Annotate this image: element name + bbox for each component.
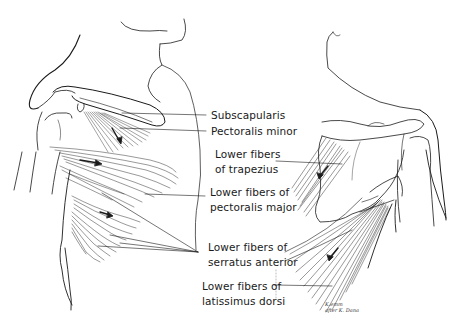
label-text: Lower fibers bbox=[215, 147, 281, 162]
anatomy-figure: Subscapularis Pectoralis minor Lower fib… bbox=[0, 0, 460, 326]
label-text: Subscapularis bbox=[211, 108, 285, 122]
label-lower-latissimus-dorsi: Lower fibers of latissimus dorsi bbox=[202, 279, 285, 309]
label-text: Lower fibers of bbox=[208, 240, 298, 255]
label-text: Lower fibers of bbox=[202, 279, 285, 294]
label-text: Pectoralis minor bbox=[211, 124, 297, 138]
label-text: serratus anterior bbox=[208, 255, 298, 270]
label-lower-pectoralis-major: Lower fibers of pectoralis major bbox=[210, 185, 297, 215]
label-text: of trapezius bbox=[215, 162, 281, 177]
label-subscapularis: Subscapularis bbox=[211, 108, 285, 122]
anterior-view-drawing bbox=[14, 19, 206, 310]
signature-line: after K. Dana bbox=[325, 307, 359, 313]
label-lower-trapezius: Lower fibers of trapezius bbox=[215, 147, 281, 177]
label-pectoralis-minor: Pectoralis minor bbox=[211, 124, 297, 138]
posterior-view-drawing bbox=[274, 32, 446, 312]
label-text: pectoralis major bbox=[210, 200, 297, 215]
label-text: latissimus dorsi bbox=[202, 294, 285, 309]
label-lower-serratus-anterior: Lower fibers of serratus anterior bbox=[208, 240, 298, 270]
label-text: Lower fibers of bbox=[210, 185, 297, 200]
artist-signature: K.emm after K. Dana bbox=[325, 301, 359, 313]
